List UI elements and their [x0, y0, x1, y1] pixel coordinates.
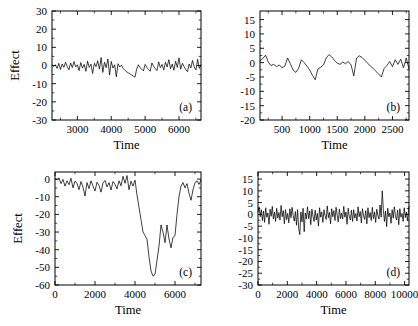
y-tick-label: -20 — [240, 114, 255, 126]
y-axis-title: Effect — [8, 50, 22, 81]
data-series-line — [260, 55, 409, 80]
x-tick-label: 500 — [274, 123, 291, 135]
x-tick-label: 6000 — [335, 288, 358, 300]
y-tick-label: -5 — [246, 71, 256, 83]
y-tick-label: -60 — [35, 279, 50, 291]
y-tick-label: -30 — [238, 279, 253, 291]
y-tick-label: 5 — [250, 42, 256, 54]
y-tick-label: 15 — [244, 14, 256, 26]
y-tick-label: -25 — [238, 267, 253, 279]
figure-container: 3020100-10-20-303000400050006000(a)TimeE… — [0, 0, 418, 326]
y-tick-label: -10 — [35, 191, 50, 203]
x-tick-label: 1000 — [299, 123, 322, 135]
y-tick-label: 0 — [42, 59, 48, 71]
y-tick-label: -30 — [32, 114, 47, 126]
y-tick-label: 0 — [250, 57, 256, 69]
x-tick-label: 8000 — [364, 288, 387, 300]
x-tick-label: 2000 — [276, 288, 299, 300]
y-axis-title: Effect — [11, 213, 25, 244]
y-tick-label: -5 — [244, 220, 254, 232]
chart-panel-d: 151050-5-10-15-20-25-3002000400060008000… — [209, 163, 418, 326]
y-tick-label: -20 — [238, 255, 253, 267]
y-tick-label: -40 — [35, 244, 50, 256]
y-tick-label: 5 — [248, 197, 254, 209]
y-tick-label: -15 — [240, 100, 255, 112]
panel-label-d: (d) — [387, 266, 401, 279]
y-tick-label: 30 — [36, 5, 48, 17]
x-tick-label: 0 — [255, 288, 261, 300]
y-tick-label: -30 — [35, 226, 50, 238]
y-tick-label: -50 — [35, 261, 50, 273]
chart-svg-b: 151050-5-10-15-205001000150020002500(b)T… — [209, 0, 418, 163]
x-tick-label: 2500 — [381, 123, 404, 135]
y-tick-label: 10 — [242, 185, 254, 197]
x-tick-label: 2000 — [354, 123, 377, 135]
x-axis-title: Time — [114, 138, 140, 152]
y-tick-label: 0 — [45, 173, 51, 185]
x-tick-label: 10000 — [391, 288, 418, 300]
x-tick-label: 6000 — [168, 123, 191, 135]
panel-label-c: (c) — [179, 266, 192, 279]
x-tick-label: 4000 — [124, 288, 147, 300]
x-tick-label: 6000 — [164, 288, 187, 300]
x-axis-title: Time — [322, 138, 348, 152]
y-tick-label: 0 — [248, 208, 254, 220]
chart-panel-a: 3020100-10-20-303000400050006000(a)TimeE… — [0, 0, 209, 163]
x-tick-label: 5000 — [134, 123, 157, 135]
data-series-line — [55, 176, 201, 277]
y-tick-label: -10 — [32, 78, 47, 90]
x-tick-label: 4000 — [306, 288, 329, 300]
x-tick-label: 2000 — [84, 288, 107, 300]
data-series-line — [258, 191, 409, 235]
x-tick-label: 3000 — [66, 123, 89, 135]
y-tick-label: 20 — [36, 23, 48, 35]
y-tick-label: 15 — [242, 173, 254, 185]
x-axis-title: Time — [115, 303, 141, 317]
x-tick-label: 0 — [52, 288, 58, 300]
x-axis-title: Time — [321, 303, 347, 317]
data-series-line — [52, 58, 201, 78]
chart-panel-b: 151050-5-10-15-205001000150020002500(b)T… — [209, 0, 418, 163]
y-tick-label: 10 — [244, 28, 256, 40]
x-tick-label: 4000 — [100, 123, 123, 135]
y-tick-label: -15 — [238, 244, 253, 256]
y-tick-label: -20 — [32, 96, 47, 108]
y-tick-label: -20 — [35, 208, 50, 220]
chart-svg-a: 3020100-10-20-303000400050006000(a)TimeE… — [0, 0, 209, 163]
y-tick-label: -10 — [238, 232, 253, 244]
chart-svg-c: 0-10-20-30-40-50-600200040006000(c)TimeE… — [0, 163, 209, 326]
y-tick-label: 10 — [36, 41, 48, 53]
y-tick-label: -10 — [240, 85, 255, 97]
x-tick-label: 1500 — [326, 123, 349, 135]
panel-label-b: (b) — [387, 101, 401, 114]
panel-label-a: (a) — [179, 101, 192, 114]
chart-panel-c: 0-10-20-30-40-50-600200040006000(c)TimeE… — [0, 163, 209, 326]
chart-svg-d: 151050-5-10-15-20-25-3002000400060008000… — [209, 163, 418, 326]
